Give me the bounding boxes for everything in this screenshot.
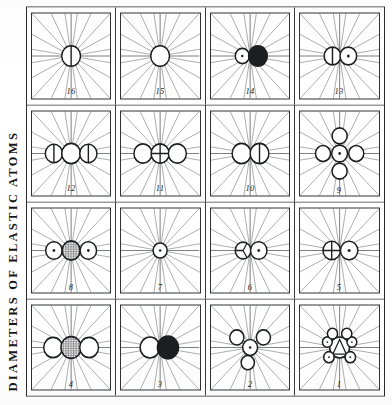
atom-cluster-15 <box>121 13 199 98</box>
atom-cluster-2 <box>211 305 289 389</box>
figure-border-8: 8 <box>31 207 111 293</box>
figure-cell-5[interactable]: 5 <box>295 201 384 298</box>
figure-border-1: 1 <box>299 304 380 390</box>
figure-border-14: 14 <box>210 12 290 99</box>
figure-border-6: 6 <box>210 207 290 293</box>
atom-cluster-10 <box>211 111 289 195</box>
atom-cluster-12 <box>32 111 110 195</box>
figure-border-12: 12 <box>31 110 111 196</box>
figure-border-10: 10 <box>210 110 290 196</box>
figure-border-13: 13 <box>299 12 380 99</box>
figure-cell-2[interactable]: 2 <box>206 298 295 395</box>
figure-grid: 48121637111526101415913 <box>26 6 385 396</box>
figure-cell-4[interactable]: 4 <box>27 298 116 395</box>
figure-border-15: 15 <box>120 12 200 99</box>
atom-cluster-5 <box>300 208 379 292</box>
atom-cluster-13 <box>300 13 379 98</box>
figure-cell-14[interactable]: 14 <box>206 7 295 104</box>
figure-border-7: 7 <box>120 207 200 293</box>
figure-cell-7[interactable]: 7 <box>116 201 205 298</box>
atom-cluster-8 <box>32 208 110 292</box>
figure-cell-1[interactable]: 1 <box>295 298 384 395</box>
atom-cluster-9 <box>300 111 379 195</box>
figure-cell-9[interactable]: 9 <box>295 104 384 201</box>
figure-cell-16[interactable]: 16 <box>27 7 116 104</box>
figure-border-5: 5 <box>299 207 380 293</box>
figure-cell-6[interactable]: 6 <box>206 201 295 298</box>
atom-cluster-11 <box>121 111 199 195</box>
page-title: DIAMETERS OF ELASTIC ATOMS <box>0 0 26 405</box>
figure-cell-13[interactable]: 13 <box>295 7 384 104</box>
figure-cell-8[interactable]: 8 <box>27 201 116 298</box>
figure-border-2: 2 <box>210 304 290 390</box>
atom-cluster-7 <box>121 208 199 292</box>
figure-cell-12[interactable]: 12 <box>27 104 116 201</box>
figure-cell-10[interactable]: 10 <box>206 104 295 201</box>
atom-cluster-4 <box>32 305 110 389</box>
atom-cluster-6 <box>211 208 289 292</box>
figure-border-11: 11 <box>120 110 200 196</box>
figure-cell-11[interactable]: 11 <box>116 104 205 201</box>
plate-wrapper: DIAMETERS OF ELASTIC ATOMS 4812163711152… <box>0 0 392 405</box>
figure-cell-15[interactable]: 15 <box>116 7 205 104</box>
atom-cluster-3 <box>121 305 199 389</box>
atom-cluster-16 <box>32 13 110 98</box>
figure-border-9: 9 <box>299 110 380 196</box>
plate-rotor: DIAMETERS OF ELASTIC ATOMS 4812163711152… <box>0 0 392 405</box>
atom-cluster-14 <box>211 13 289 98</box>
figure-border-4: 4 <box>31 304 111 390</box>
atom-cluster-1 <box>300 305 379 389</box>
figure-cell-3[interactable]: 3 <box>116 298 205 395</box>
figure-border-3: 3 <box>120 304 200 390</box>
figure-border-16: 16 <box>31 12 111 99</box>
